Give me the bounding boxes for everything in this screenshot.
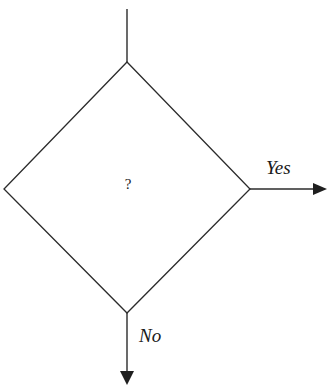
flowchart-diagram: ? Yes No <box>0 0 335 392</box>
no-arrowhead-icon <box>120 371 134 385</box>
decision-node-label: ? <box>125 176 132 192</box>
yes-branch-label: Yes <box>266 157 291 178</box>
flowchart-canvas: ? Yes No <box>0 0 335 392</box>
no-branch-label: No <box>138 325 161 346</box>
yes-arrowhead-icon <box>313 183 327 195</box>
